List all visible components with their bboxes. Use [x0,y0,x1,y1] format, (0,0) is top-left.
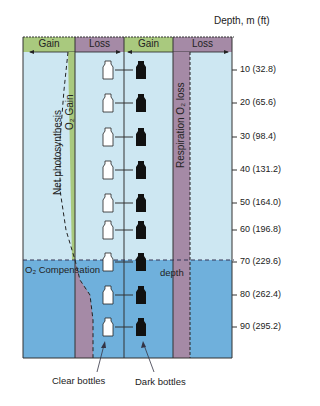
o2-gain-label: O₂ Gain [64,94,75,130]
tick-label: 40 (131.2) [240,164,281,174]
tick-label: 20 (65.6) [240,97,276,107]
net-photosynthesis-label: Net photosynthesis [52,110,63,195]
depth-ticks [232,70,237,327]
tick-label: 50 (164.0) [240,197,281,207]
respiration-loss-label: Respiration O₂ loss [175,82,186,168]
compensation-depth-label: depth [160,267,184,278]
clear-bottles-label: Clear bottles [52,375,105,386]
right-gain-label: Gain [124,38,173,49]
dark-bottles-label: Dark bottles [135,376,186,387]
tick-label: 30 (98.4) [240,131,276,141]
right-loss-label: Loss [173,38,232,49]
tick-label: 10 (32.8) [240,64,276,74]
tick-label: 80 (262.4) [240,289,281,299]
depth-axis-title: Depth, m (ft) [214,15,270,26]
left-loss-label: Loss [75,38,124,49]
tick-label: 60 (196.8) [240,224,281,234]
left-gain-label: Gain [23,38,75,49]
compensation-label: O₂ Compensation [25,264,100,275]
tick-label: 90 (295.2) [240,321,281,331]
tick-label: 70 (229.6) [240,256,281,266]
